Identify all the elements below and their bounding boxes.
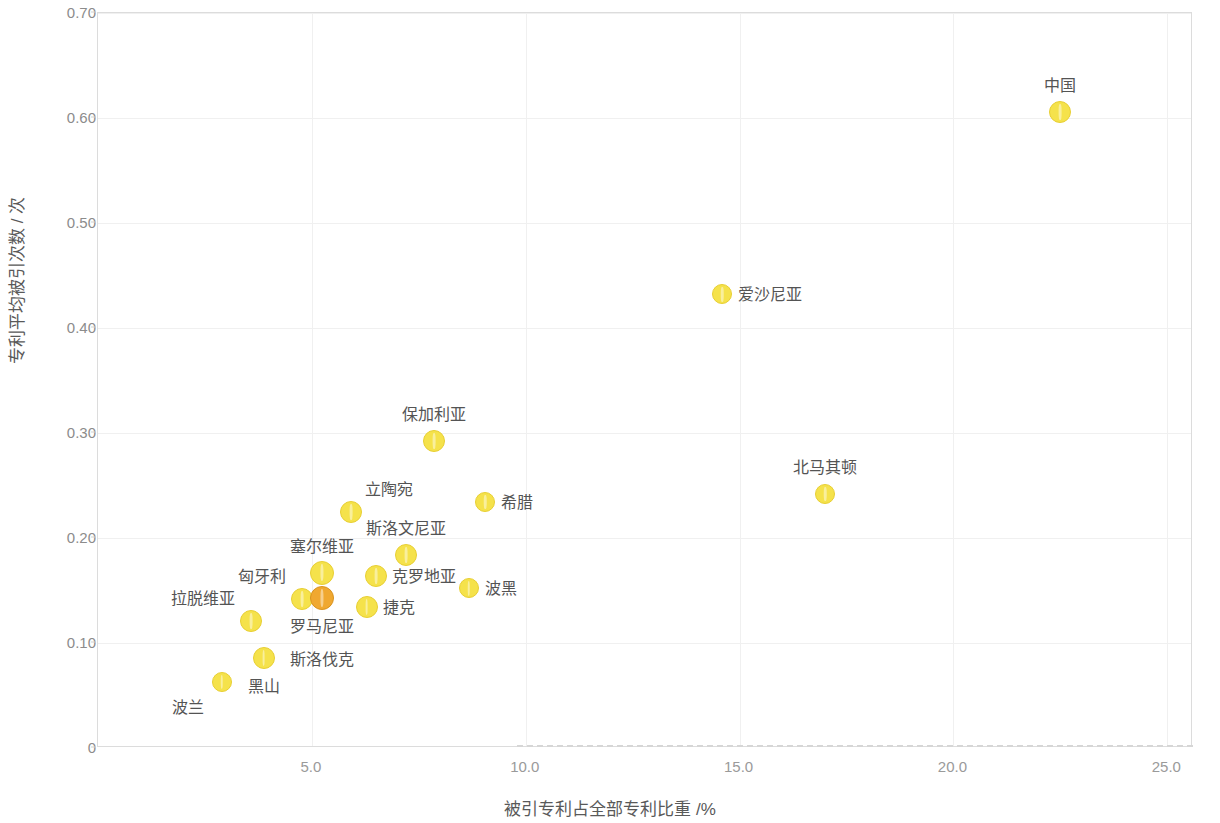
marker-highlight-stripe <box>824 487 827 501</box>
data-point-marker[interactable] <box>310 586 334 610</box>
data-point-marker[interactable] <box>356 596 378 618</box>
data-point-label: 捷克 <box>383 600 415 616</box>
y-axis-tick-label: 0 <box>6 740 96 755</box>
gridline-horizontal <box>98 13 1191 14</box>
scatter-chart-figure: 中国爱沙尼亚北马其顿保加利亚希腊立陶宛斯洛文尼亚克罗地亚波黑塞尔维亚匈牙利罗马尼… <box>0 0 1220 823</box>
y-axis-tick-mark <box>91 222 96 223</box>
x-axis-tick-label: 20.0 <box>938 759 967 774</box>
data-point-marker[interactable] <box>815 484 835 504</box>
data-point-label: 罗马尼亚 <box>290 619 354 635</box>
marker-highlight-stripe <box>1059 104 1062 120</box>
marker-highlight-stripe <box>365 599 368 615</box>
gridline-horizontal <box>98 118 1191 119</box>
marker-highlight-stripe <box>262 650 265 666</box>
data-point-marker[interactable] <box>459 578 479 598</box>
data-point-label: 黑山 <box>248 679 280 695</box>
x-axis-ticks: 5.010.015.020.025.0 <box>97 747 1192 787</box>
y-axis-tick-label: 0.10 <box>6 635 96 650</box>
x-axis-tick-label: 15.0 <box>724 759 753 774</box>
data-point-marker[interactable] <box>712 284 732 304</box>
gridline-vertical <box>953 13 954 746</box>
marker-highlight-stripe <box>250 613 253 629</box>
data-point-marker[interactable] <box>1049 101 1071 123</box>
gridline-horizontal <box>98 328 1191 329</box>
y-axis-tick-mark <box>91 642 96 643</box>
marker-highlight-stripe <box>220 675 223 689</box>
gridline-vertical <box>526 13 527 746</box>
y-axis-label: 专利平均被引次数 / 次 <box>3 131 28 431</box>
data-point-label: 波黑 <box>485 581 517 597</box>
marker-highlight-stripe <box>468 581 471 595</box>
gridline-vertical <box>740 13 741 746</box>
marker-highlight-stripe <box>432 433 435 449</box>
y-axis-tick-label: 0.60 <box>6 110 96 125</box>
data-point-label: 斯洛伐克 <box>290 652 354 668</box>
y-axis-tick-label: 0.20 <box>6 530 96 545</box>
data-point-label: 克罗地亚 <box>392 569 456 585</box>
plot-area: 中国爱沙尼亚北马其顿保加利亚希腊立陶宛斯洛文尼亚克罗地亚波黑塞尔维亚匈牙利罗马尼… <box>97 12 1192 747</box>
data-point-label: 塞尔维亚 <box>290 539 354 555</box>
gridline-horizontal <box>98 433 1191 434</box>
x-axis-tick-label: 5.0 <box>300 759 321 774</box>
y-axis-tick-label: 0.70 <box>6 5 96 20</box>
gridline-vertical <box>312 13 313 746</box>
marker-highlight-stripe <box>484 495 487 509</box>
data-point-marker[interactable] <box>423 430 445 452</box>
y-axis-tick-mark <box>91 747 96 748</box>
gridline-horizontal <box>98 538 1191 539</box>
data-point-label: 立陶宛 <box>365 482 413 498</box>
data-point-label: 匈牙利 <box>238 569 286 585</box>
marker-highlight-stripe <box>321 564 324 582</box>
data-point-label: 波兰 <box>172 700 204 716</box>
data-point-label: 拉脱维亚 <box>171 591 235 607</box>
data-point-marker[interactable] <box>212 672 232 692</box>
marker-highlight-stripe <box>375 568 378 584</box>
gridline-horizontal <box>98 223 1191 224</box>
marker-highlight-stripe <box>301 591 304 607</box>
data-point-label: 保加利亚 <box>402 407 466 423</box>
data-point-label: 北马其顿 <box>793 460 857 476</box>
x-axis-tick-label: 10.0 <box>510 759 539 774</box>
y-axis-tick-mark <box>91 117 96 118</box>
data-point-marker[interactable] <box>395 544 417 566</box>
y-axis-tick-mark <box>91 327 96 328</box>
marker-highlight-stripe <box>321 589 324 607</box>
data-point-marker[interactable] <box>365 565 387 587</box>
marker-highlight-stripe <box>721 287 724 301</box>
gridline-vertical <box>1167 13 1168 746</box>
data-point-marker[interactable] <box>253 647 275 669</box>
data-point-label: 爱沙尼亚 <box>738 287 802 303</box>
data-point-marker[interactable] <box>310 561 334 585</box>
gridline-horizontal <box>98 643 1191 644</box>
data-point-marker[interactable] <box>340 501 362 523</box>
x-axis-label: 被引专利占全部专利比重 /% <box>0 795 1220 820</box>
data-point-label: 中国 <box>1044 78 1076 94</box>
data-point-label: 斯洛文尼亚 <box>366 521 446 537</box>
y-axis-tick-mark <box>91 432 96 433</box>
marker-highlight-stripe <box>350 504 353 520</box>
data-point-marker[interactable] <box>240 610 262 632</box>
x-axis-tick-label: 25.0 <box>1152 759 1181 774</box>
marker-highlight-stripe <box>405 547 408 563</box>
y-axis-tick-mark <box>91 12 96 13</box>
y-axis-tick-mark <box>91 537 96 538</box>
data-point-marker[interactable] <box>475 492 495 512</box>
data-point-label: 希腊 <box>501 495 533 511</box>
